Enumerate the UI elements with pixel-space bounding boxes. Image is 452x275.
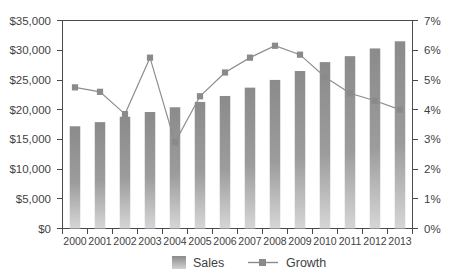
growth-marker-2003 (147, 55, 153, 61)
sales-bars (70, 41, 406, 228)
x-tick-label-2003: 2003 (138, 235, 162, 247)
left-tick-label-3: $15,000 (9, 133, 51, 145)
growth-marker-2002 (122, 111, 128, 117)
right-tick-label-5: 5% (424, 74, 441, 86)
growth-marker-2009 (297, 52, 303, 58)
x-axis-tick-labels: 2000200120022003200420052006200720082009… (63, 235, 412, 247)
bar-2000 (70, 126, 81, 228)
growth-marker-2001 (97, 89, 103, 95)
right-tick-label-0: 0% (424, 223, 441, 235)
x-axis-ticks (63, 229, 413, 234)
bar-2008 (270, 80, 281, 229)
legend-swatch-sales (172, 256, 186, 269)
x-tick-label-2005: 2005 (188, 235, 212, 247)
legend-label-sales: Sales (193, 256, 224, 270)
left-tick-label-0: $0 (38, 223, 51, 235)
plot-frame (63, 20, 413, 229)
legend-marker-growth (259, 259, 266, 266)
bar-2004 (170, 107, 181, 228)
bar-2002 (120, 117, 131, 229)
right-tick-label-7: 7% (424, 15, 441, 27)
bar-2007 (245, 88, 256, 229)
growth-marker-2013 (397, 107, 403, 113)
growth-marker-2010 (322, 74, 328, 80)
bar-2010 (320, 62, 331, 228)
x-tick-label-2009: 2009 (288, 235, 312, 247)
growth-marker-2000 (72, 84, 78, 90)
x-tick-label-2006: 2006 (213, 235, 237, 247)
growth-marker-2008 (272, 43, 278, 49)
bar-2006 (220, 96, 231, 229)
left-axis-ticks (57, 21, 63, 229)
x-tick-label-2008: 2008 (263, 235, 287, 247)
left-tick-label-2: $10,000 (9, 163, 51, 175)
bar-2001 (95, 122, 106, 228)
left-tick-label-4: $20,000 (9, 104, 51, 116)
left-tick-label-5: $25,000 (9, 74, 51, 86)
left-tick-label-7: $35,000 (9, 15, 51, 27)
right-tick-label-2: 2% (424, 163, 441, 175)
growth-marker-2006 (222, 69, 228, 75)
legend-label-growth: Growth (286, 256, 326, 270)
bar-2005 (195, 102, 206, 229)
growth-marker-2007 (247, 55, 253, 61)
right-tick-label-1: 1% (424, 193, 441, 205)
growth-marker-2011 (347, 90, 353, 96)
right-tick-label-3: 3% (424, 133, 441, 145)
x-tick-label-2010: 2010 (313, 235, 337, 247)
x-tick-label-2000: 2000 (63, 235, 87, 247)
x-tick-label-2011: 2011 (339, 235, 362, 247)
x-tick-label-2002: 2002 (113, 235, 137, 247)
bar-2012 (370, 48, 381, 228)
x-tick-label-2013: 2013 (388, 235, 412, 247)
x-tick-label-2004: 2004 (163, 235, 187, 247)
left-tick-label-6: $30,000 (9, 44, 51, 56)
right-axis-tick-labels: 0% 1% 2% 3% 4% 5% 6% 7% (424, 15, 441, 235)
growth-marker-2012 (372, 98, 378, 104)
sales-growth-chart: $0 $5,000 $10,000 $15,000 $20,000 $25,00… (0, 0, 452, 275)
bar-2009 (295, 71, 306, 228)
growth-marker-2004 (172, 139, 178, 145)
growth-marker-2005 (197, 93, 203, 99)
x-tick-label-2012: 2012 (363, 235, 387, 247)
x-tick-label-2001: 2001 (88, 235, 112, 247)
x-tick-label-2007: 2007 (238, 235, 262, 247)
bar-2011 (345, 56, 356, 228)
left-tick-label-1: $5,000 (16, 193, 51, 205)
bar-2013 (395, 41, 406, 228)
bar-2003 (145, 112, 156, 228)
legend: Sales Growth (172, 256, 326, 270)
left-axis-tick-labels: $0 $5,000 $10,000 $15,000 $20,000 $25,00… (9, 15, 51, 235)
right-tick-label-4: 4% (424, 104, 441, 116)
right-tick-label-6: 6% (424, 44, 441, 56)
right-axis-ticks (413, 21, 419, 229)
